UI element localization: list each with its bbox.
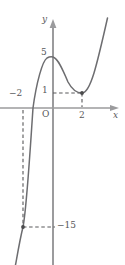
x-axis-arrowhead — [110, 105, 119, 111]
graph-canvas — [0, 0, 125, 265]
graph-figure: y x 5 1 −2 2 O −15 — [0, 0, 125, 265]
point-marker-neg2-neg15 — [21, 225, 25, 229]
cubic-curve — [16, 18, 108, 265]
y-axis-arrowhead — [50, 19, 57, 28]
point-marker-local-min — [80, 91, 84, 95]
